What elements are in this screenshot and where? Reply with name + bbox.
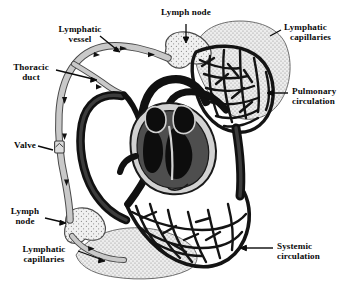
label-lymphatic-vessel-line1: Lymphatic [52,24,108,34]
label-lymph-node-top: Lymph node [148,7,224,17]
lymphatic-circulation-diagram: Lymph node Lymphatic capillaries Lymphat… [0,0,343,287]
label-lymphatic-vessel-line2: vessel [52,34,108,44]
label-lymphatic-capillaries-bottom-line2: capillaries [12,254,76,264]
label-lymphatic-capillaries-bottom: Lymphatic capillaries [12,244,76,264]
leader-valve [38,146,53,150]
label-lymph-node-bottom-line1: Lymph [6,206,44,216]
label-lymphatic-capillaries-top-line1: Lymphatic [284,22,342,32]
label-lymphatic-capillaries-bottom-line1: Lymphatic [12,244,76,254]
label-systemic-circulation-line2: circulation [277,251,341,261]
heart-cross-section [120,103,216,194]
label-thoracic-duct-line2: duct [6,72,56,82]
label-systemic-circulation-line1: Systemic [277,241,341,251]
label-valve-line1: Valve [0,140,36,150]
label-pulmonary-circulation-line1: Pulmonary [292,86,343,96]
label-lymphatic-vessel: Lymphatic vessel [52,24,108,44]
label-lymph-node-bottom: Lymph node [6,206,44,226]
label-pulmonary-circulation: Pulmonary circulation [292,86,343,106]
leader-lymph-node-bottom [45,218,62,222]
label-lymph-node-bottom-line2: node [6,216,44,226]
label-lymphatic-capillaries-top: Lymphatic capillaries [284,22,342,42]
label-lymphatic-capillaries-top-line2: capillaries [290,32,342,42]
valve-shape [55,141,65,153]
label-lymph-node-top-line1: Lymph node [148,7,224,17]
label-thoracic-duct-line1: Thoracic [6,62,56,72]
label-systemic-circulation: Systemic circulation [277,241,341,261]
label-valve: Valve [0,140,36,150]
label-thoracic-duct: Thoracic duct [6,62,56,82]
label-pulmonary-circulation-line2: circulation [292,96,343,106]
